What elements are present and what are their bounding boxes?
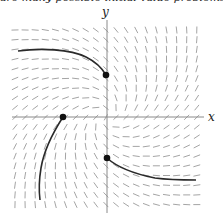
slope-segment (163, 145, 170, 147)
slope-segment (175, 95, 178, 101)
slope-segment (124, 27, 128, 33)
slope-segment (146, 65, 147, 72)
slope-segment (123, 174, 129, 177)
slope-segment (145, 95, 147, 102)
slope-segment (32, 96, 38, 100)
slope-segment (12, 39, 19, 40)
slope-segment (104, 134, 109, 139)
slope-segment (103, 86, 108, 91)
slope-segment (42, 39, 49, 40)
slope-segment (84, 163, 87, 170)
slope-segment (45, 201, 46, 208)
slope-segment (55, 143, 57, 150)
slope-segment (113, 136, 120, 138)
slope-segment (94, 202, 98, 208)
slope-segment (85, 143, 86, 150)
slope-segment (163, 194, 170, 195)
slope-segment (124, 37, 128, 43)
slope-segment (165, 85, 167, 92)
slope-segment (173, 204, 180, 205)
slope-segment (64, 124, 68, 130)
slope-segment (22, 77, 29, 79)
slope-segment (114, 56, 118, 62)
slope-segment (14, 163, 16, 170)
slope-segment (64, 201, 66, 208)
slope-segment (13, 143, 16, 149)
slope-segment (22, 105, 27, 109)
slope-segment (42, 29, 49, 30)
slope-segment (65, 143, 66, 150)
slope-segment (153, 135, 159, 138)
y-axis-label: y (101, 5, 109, 19)
slope-segment (15, 191, 16, 198)
slope-segment (73, 106, 79, 109)
slope-segment (45, 191, 46, 198)
slope-segment (22, 96, 28, 100)
slope-segment (93, 47, 99, 51)
slope-segment (114, 47, 118, 53)
slope-segment (123, 126, 130, 128)
slope-segment (54, 134, 57, 140)
slope-segment (173, 155, 180, 157)
slope-segment (135, 105, 138, 111)
slope-segment (24, 153, 26, 160)
slope-segment (123, 146, 130, 147)
slope-segment (143, 125, 149, 129)
slope-segment (196, 56, 197, 63)
slope-segment (75, 172, 77, 179)
slope-segment (164, 105, 168, 111)
slope-segment (22, 68, 29, 70)
slope-segment (103, 66, 108, 71)
slope-segment (113, 145, 119, 148)
slope-segment (82, 106, 89, 109)
slope-segment (145, 27, 147, 34)
slope-segment (135, 27, 138, 33)
slope-segment (103, 96, 108, 101)
slope-segment (52, 29, 59, 31)
slope-segment (14, 153, 17, 159)
slope-segment (94, 143, 97, 149)
slope-segment (186, 46, 187, 53)
slope-segment (114, 27, 118, 32)
slope-segment (133, 136, 140, 137)
slope-segment (183, 175, 190, 176)
slope-segment (65, 192, 67, 199)
slope-segment (92, 107, 99, 108)
slope-segment (14, 172, 16, 179)
slope-segment (113, 202, 118, 206)
slope-segment (64, 133, 66, 140)
slope-segment (53, 106, 59, 110)
slope-segment (133, 194, 139, 197)
slope-segment (184, 125, 190, 129)
slope-segment (146, 85, 147, 92)
slope-segment (72, 29, 78, 32)
slope-segment (173, 165, 180, 166)
slope-segment (74, 124, 77, 130)
slope-segment (72, 48, 79, 50)
slope-segment (74, 201, 77, 207)
slope-segment (135, 65, 137, 72)
slope-segment (72, 68, 79, 69)
slope-segment (13, 134, 17, 140)
slope-segment (186, 75, 188, 82)
slope-segment (75, 162, 76, 169)
slope-segment (12, 49, 19, 50)
slope-segment (62, 88, 69, 89)
slope-segment (84, 172, 87, 178)
slope-segment (32, 30, 39, 31)
slope-segment (32, 106, 38, 110)
slope-segment (125, 66, 128, 72)
slope-segment (24, 143, 27, 149)
slope-segment (153, 204, 160, 206)
slope-segment (84, 192, 87, 198)
slope-segment (52, 96, 58, 99)
slope-segment (42, 68, 49, 69)
slope-segment (114, 85, 117, 91)
slope-segment (12, 58, 19, 60)
slope-segment (156, 85, 158, 92)
slope-segment (133, 156, 140, 157)
slope-segment (194, 135, 200, 139)
slope-segment (103, 47, 108, 52)
slope-segment (153, 146, 160, 148)
slope-segment (45, 162, 46, 169)
